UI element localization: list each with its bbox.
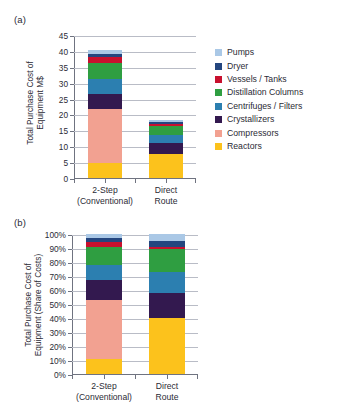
bar-segment xyxy=(149,126,183,135)
legend-swatch-icon xyxy=(215,63,222,70)
bar-segment xyxy=(88,109,122,163)
bar-segment xyxy=(88,94,122,109)
legend-item-compressors[interactable]: Compressors xyxy=(215,126,303,139)
chart-panel-b: (b) Total Purchase Cost of Equipment (Sh… xyxy=(0,205,341,409)
y-tick-mark xyxy=(70,68,74,69)
chart-panel-a: (a) Total Purchase Cost of Equipment M$ … xyxy=(0,0,341,205)
x-tick-mark xyxy=(104,375,105,379)
y-tick-mark xyxy=(70,163,74,164)
bar-segment xyxy=(149,154,183,178)
legend-item-crystallizers[interactable]: Crystallizers xyxy=(215,113,303,126)
legend-item-pumps[interactable]: Pumps xyxy=(215,46,303,59)
y-tick-mark xyxy=(68,235,72,236)
y-tick-mark xyxy=(70,115,74,116)
bar-segment xyxy=(88,163,122,178)
legend-label: Vessels / Tanks xyxy=(227,75,287,84)
legend-swatch-icon xyxy=(215,103,222,110)
bar-segment xyxy=(86,280,122,300)
bar-segment xyxy=(86,265,122,280)
y-tick-label: 80% xyxy=(49,259,66,267)
y-tick-mark xyxy=(68,305,72,306)
y-tick-mark xyxy=(68,291,72,292)
y-tick-mark xyxy=(68,249,72,250)
bar-segment xyxy=(149,143,183,154)
bar-segment xyxy=(149,249,185,271)
y-tick-label: 35 xyxy=(59,64,68,72)
legend-item-dryer[interactable]: Dryer xyxy=(215,59,303,72)
legend-swatch-icon xyxy=(215,130,222,137)
bar-2-step xyxy=(86,234,122,374)
y-tick-mark xyxy=(70,84,74,85)
x-category-label-line: 2-Step xyxy=(77,185,133,196)
y-tick-mark xyxy=(70,36,74,37)
legend-item-distillation-columns[interactable]: Distillation Columns xyxy=(215,86,303,99)
panel-b-label: (b) xyxy=(14,217,26,228)
x-category-label: 2-Step(Conventional) xyxy=(77,185,133,206)
x-tick-mark xyxy=(105,179,106,183)
x-tick-mark xyxy=(167,375,168,379)
legend-swatch-icon xyxy=(215,143,222,150)
legend-label: Dryer xyxy=(227,62,248,71)
bar-direct-route xyxy=(149,120,183,178)
bar-segment xyxy=(149,318,185,374)
x-tick-mark xyxy=(135,179,136,183)
x-category-label-line: Direct xyxy=(156,381,179,392)
y-tick-label: 50% xyxy=(49,301,66,309)
y-axis-title-line-2: Equipment (Share of Costs) xyxy=(34,235,44,375)
panel-a-plot-area: 051015202530354045 xyxy=(74,36,196,179)
y-tick-label: 0 xyxy=(63,175,68,183)
y-tick-mark xyxy=(70,131,74,132)
panel-a-label: (a) xyxy=(14,14,26,25)
x-category-label: DirectRoute xyxy=(155,185,178,206)
y-tick-mark xyxy=(70,147,74,148)
bar-direct-route xyxy=(149,234,185,374)
legend-swatch-icon xyxy=(215,116,222,123)
y-tick-label: 10% xyxy=(49,357,66,365)
bar-segment xyxy=(86,247,122,265)
bar-segment xyxy=(86,300,122,359)
y-tick-label: 30 xyxy=(59,80,68,88)
y-tick-label: 100% xyxy=(45,231,66,239)
panel-a-legend: PumpsDryerVessels / TanksDistillation Co… xyxy=(215,46,303,153)
panel-a-y-axis xyxy=(74,36,75,179)
legend-label: Reactors xyxy=(227,142,262,151)
legend-item-centrifuges-filters[interactable]: Centrifuges / Filters xyxy=(215,100,303,113)
y-tick-label: 30% xyxy=(49,329,66,337)
panel-a-y-axis-title: Total Purchase Cost of Equipment M$ xyxy=(26,38,45,168)
y-tick-label: 90% xyxy=(49,245,66,253)
y-tick-label: 60% xyxy=(49,287,66,295)
y-tick-label: 25 xyxy=(59,95,68,103)
y-tick-mark xyxy=(68,277,72,278)
x-category-label-line: Direct xyxy=(155,185,178,196)
y-tick-label: 5 xyxy=(63,159,68,167)
x-category-label: 2-Step(Conventional) xyxy=(76,381,132,402)
y-tick-label: 0% xyxy=(54,371,66,379)
legend-label: Crystallizers xyxy=(227,115,274,124)
y-tick-mark xyxy=(70,52,74,53)
legend-swatch-icon xyxy=(215,89,222,96)
figure-root: (a) Total Purchase Cost of Equipment M$ … xyxy=(0,0,341,409)
legend-label: Compressors xyxy=(227,129,279,138)
bar-2-step xyxy=(88,50,122,178)
panel-b-y-axis-title: Total Purchase Cost of Equipment (Share … xyxy=(24,235,43,375)
y-tick-mark xyxy=(68,333,72,334)
x-category-label: DirectRoute xyxy=(156,381,179,402)
bar-segment xyxy=(149,234,185,241)
y-tick-mark xyxy=(68,263,72,264)
x-category-label-line: 2-Step xyxy=(76,381,132,392)
x-tick-mark xyxy=(166,179,167,183)
y-axis-title-line-2: Equipment M$ xyxy=(36,38,46,168)
y-tick-mark xyxy=(70,100,74,101)
x-tick-mark xyxy=(72,375,73,379)
y-tick-label: 40 xyxy=(59,48,68,56)
legend-item-reactors[interactable]: Reactors xyxy=(215,140,303,153)
x-category-label-line: (Conventional) xyxy=(76,392,132,403)
x-tick-mark xyxy=(197,375,198,379)
y-tick-mark xyxy=(68,347,72,348)
legend-label: Pumps xyxy=(227,48,254,57)
y-tick-mark xyxy=(68,319,72,320)
bar-segment xyxy=(149,272,185,293)
x-tick-mark xyxy=(74,179,75,183)
panel-b-plot-area: 0%10%20%30%40%50%60%70%80%90%100% xyxy=(72,235,198,375)
legend-item-vessels-tanks[interactable]: Vessels / Tanks xyxy=(215,73,303,86)
